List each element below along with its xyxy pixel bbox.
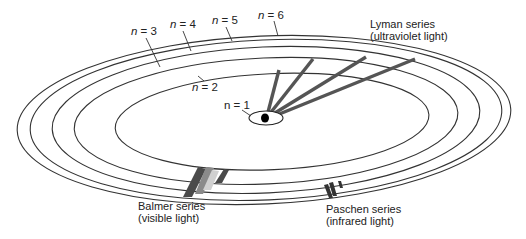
balmer-series-region: (visible light): [138, 212, 199, 224]
lyman-series-label: Lyman series: [370, 18, 436, 30]
label-n6: n = 6: [258, 9, 284, 21]
label-n5: n = 5: [212, 14, 238, 26]
label-n3: n = 3: [131, 25, 157, 37]
balmer-series-label: Balmer series: [138, 200, 206, 212]
label-n4: n = 4: [170, 18, 197, 30]
bohr-model-diagram: n = 3 n = 4 n = 5 n = 6 n = 2 n = 1 Lyma…: [0, 0, 526, 239]
label-n1: n = 1: [224, 99, 250, 111]
label-n2: n = 2: [192, 81, 218, 93]
lyman-series-region: (ultraviolet light): [370, 30, 448, 42]
lyman-series-lines: [267, 57, 415, 117]
paschen-series-region: (infrared light): [326, 215, 394, 227]
lyman-line-4: [272, 59, 415, 117]
nucleus-icon: [261, 114, 269, 123]
paschen-series-label: Paschen series: [326, 203, 402, 215]
paschen-arrow-3: [338, 181, 343, 188]
level-leaders: [146, 21, 278, 116]
